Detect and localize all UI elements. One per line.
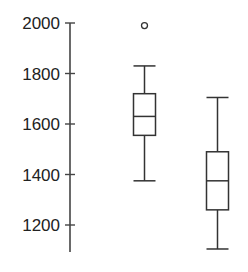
y-tick-label: 1400 <box>22 166 60 185</box>
box-plot-chart: 12001400160018002000 <box>0 0 248 272</box>
iqr-box <box>134 94 156 136</box>
box-group-2 <box>207 97 229 249</box>
outlier-point <box>142 23 148 29</box>
y-tick-label: 1200 <box>22 216 60 235</box>
y-axis: 12001400160018002000 <box>22 14 75 252</box>
boxes <box>134 23 229 249</box>
y-tick-label: 1800 <box>22 65 60 84</box>
y-tick-label: 2000 <box>22 14 60 33</box>
box-group-1 <box>134 23 156 181</box>
y-tick-label: 1600 <box>22 115 60 134</box>
